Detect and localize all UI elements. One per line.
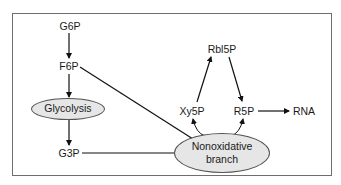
arrow-xy5p-to-rbl5p xyxy=(197,57,211,102)
arrow-rbl5p-to-r5p xyxy=(229,57,242,101)
glycolysis-label: Glycolysis xyxy=(44,102,91,115)
node-nonoxidative-branch: Nonoxidative branch xyxy=(174,133,270,173)
node-g6p: G6P xyxy=(59,21,80,32)
nonoxidative-label-line2: branch xyxy=(192,153,253,166)
diagram-canvas: G6P F6P Glycolysis G3P Rbl5P Xy5P R5P RN… xyxy=(0,0,341,185)
node-r5p: R5P xyxy=(234,106,254,117)
nonoxidative-label-line1: Nonoxidative xyxy=(192,140,253,153)
node-xy5p: Xy5P xyxy=(179,106,204,117)
node-g3p: G3P xyxy=(58,148,79,159)
nonoxidative-label: Nonoxidative branch xyxy=(192,140,253,166)
pathway-arrows xyxy=(0,0,341,185)
node-rbl5p: Rbl5P xyxy=(208,44,237,55)
node-rna: RNA xyxy=(293,106,315,117)
node-f6p: F6P xyxy=(59,61,78,72)
node-glycolysis: Glycolysis xyxy=(31,98,105,120)
